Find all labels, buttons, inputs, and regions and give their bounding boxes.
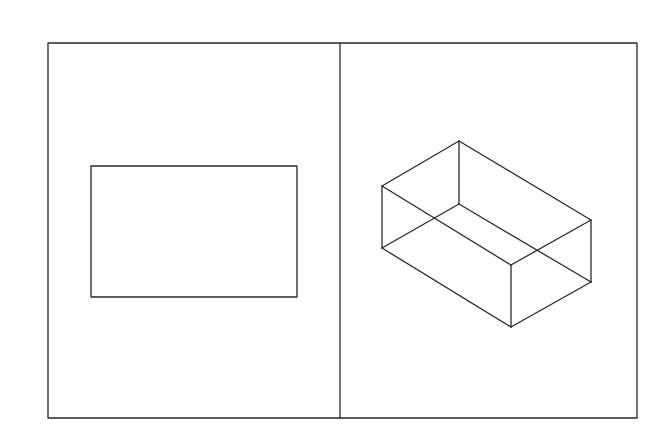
- box-edge-left-bottom-to-front-bottom: [382, 248, 511, 327]
- flat-rectangle: [91, 166, 297, 297]
- box-edge-inner-bottom-to-right-bottom: [459, 204, 591, 282]
- box-edge-left-top-to-front-top: [382, 186, 511, 265]
- box-edge-front-bottom-to-right-bottom: [511, 282, 591, 327]
- right-panel-wireframe-box: [382, 141, 591, 327]
- outer-frame: [48, 43, 637, 418]
- diagram-canvas: [0, 0, 670, 447]
- box-edge-top-back-to-left-top: [382, 141, 459, 186]
- left-panel: [91, 166, 297, 297]
- box-edge-top-back-to-right-top: [459, 141, 591, 220]
